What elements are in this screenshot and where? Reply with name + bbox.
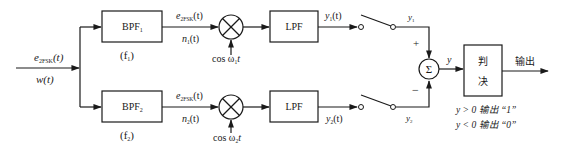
input-signal-label: e2FSK(t) <box>34 51 64 64</box>
summer: Σ y <box>419 54 463 79</box>
minus-sign: − <box>412 83 419 97</box>
mixer1-icon <box>219 15 243 39</box>
carrier1-label: cos ω1t <box>212 53 240 65</box>
decision-rule-1: y > 0 输出 “1” <box>455 104 516 115</box>
branch-2: BPF2 (f2) e2FSK(t) n2(t) cos ω2t LPF y2(… <box>102 81 429 144</box>
sampling-switch-1 <box>359 15 396 30</box>
bpf2-label: BPF2 <box>122 101 143 113</box>
mixer2-icon <box>219 95 243 119</box>
bpf1-label: BPF1 <box>122 21 143 33</box>
decision-label-1: 判 <box>478 56 488 67</box>
bpf1-freq: (f1) <box>120 49 134 62</box>
lpf2-output-label: y2(t) <box>325 113 343 125</box>
branch-1: BPF1 (f1) e2FSK(t) n1(t) cos ω1t LPF y1(… <box>102 10 429 65</box>
block-diagram: e2FSK(t) w(t) BPF1 (f1) e2FSK(t) n1(t) c… <box>0 0 562 150</box>
input-signal: e2FSK(t) w(t) <box>16 51 79 86</box>
sample2-label: y2 <box>405 113 413 124</box>
sampling-switch-2 <box>359 95 396 110</box>
decision-box <box>464 45 502 96</box>
lpf1-label: LPF <box>285 21 303 32</box>
decision-rule-2: y < 0 输出 “0” <box>455 119 516 130</box>
lpf2-label: LPF <box>285 101 303 112</box>
branch2-noise-label: n2(t) <box>182 113 199 125</box>
plus-sign: + <box>413 37 419 49</box>
output-label: 输出 <box>515 55 535 67</box>
bpf2-freq: (f2) <box>120 129 134 142</box>
sigma-icon: Σ <box>426 63 432 75</box>
lpf1-output-label: y1(t) <box>324 10 342 22</box>
branch1-noise-label: n1(t) <box>182 33 199 45</box>
decision-label-2: 决 <box>478 76 488 87</box>
branch1-signal-label: e2FSK(t) <box>176 10 203 22</box>
sum-output-label: y <box>446 54 452 65</box>
carrier2-label: cos ω2t <box>213 132 241 144</box>
branch2-signal-label: e2FSK(t) <box>176 90 203 102</box>
sample1-label: y1 <box>407 12 415 23</box>
input-noise-label: w(t) <box>36 73 54 86</box>
decision: 判 决 输出 y > 0 输出 “1” y < 0 输出 “0” <box>455 45 548 130</box>
